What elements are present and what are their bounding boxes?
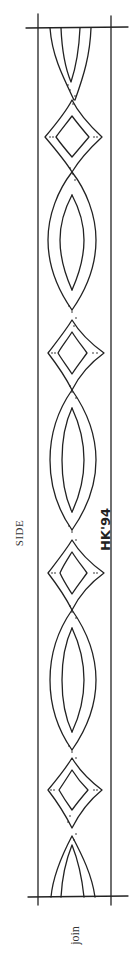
lens-3 <box>50 610 96 750</box>
top-join-line <box>26 27 128 28</box>
signature-label: HK'94 <box>98 508 113 551</box>
bottom-join-line <box>28 896 128 897</box>
lens-1 <box>48 172 96 310</box>
strand-top <box>50 28 91 100</box>
diamond-2 <box>48 320 104 390</box>
pattern-drawing <box>0 0 140 956</box>
diamond-1 <box>45 100 102 172</box>
side-label: SIDE <box>13 520 25 546</box>
diamond-4 <box>48 758 102 828</box>
diamond-3 <box>48 540 104 610</box>
join-label: join <box>68 926 83 945</box>
strand-bottom <box>51 836 95 897</box>
lens-2 <box>50 390 96 530</box>
